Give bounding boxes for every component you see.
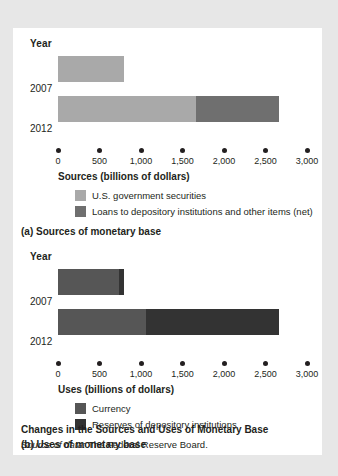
x-axis-tick-mark [97, 361, 102, 366]
x-axis-tick-label: 0 [55, 369, 60, 379]
x-axis-sources: 05001,0001,5002,0002,5003,000 [58, 148, 307, 170]
x-axis-tick-label: 2,000 [213, 156, 236, 166]
figure-card: Year 2007 2012 05001,0001,5002,0002,5003… [13, 28, 322, 455]
year-label-2012-a: 2012 [30, 123, 52, 134]
plot-area-uses [58, 269, 307, 359]
x-axis-title-uses: Uses (billions of dollars) [58, 384, 174, 395]
bar-segment [58, 309, 146, 335]
x-axis-tick-label: 3,000 [296, 369, 319, 379]
x-axis-tick-mark [56, 148, 61, 153]
year-label-2007-a: 2007 [30, 83, 52, 94]
x-axis-tick-mark [263, 361, 268, 366]
chart-panel-uses: Year 2007 2012 05001,0001,5002,0002,5003… [13, 233, 322, 455]
x-axis-tick-mark [97, 148, 102, 153]
x-axis-tick-mark [139, 148, 144, 153]
x-axis-tick-mark [305, 148, 310, 153]
legend-swatch-icon [75, 190, 86, 201]
figure-source-prefix: Source of data: [21, 439, 85, 450]
x-axis-tick-label: 0 [55, 156, 60, 166]
x-axis-tick-mark [56, 361, 61, 366]
bar-segment [196, 96, 279, 122]
x-axis-tick-mark [222, 148, 227, 153]
legend-label: U.S. government securities [92, 189, 206, 202]
x-axis-tick-mark [139, 361, 144, 366]
plot-area-sources [58, 56, 307, 146]
legend-swatch-icon [75, 403, 86, 414]
x-axis-tick-mark [222, 361, 227, 366]
figure-source-text: The Federal Reserve Board. [85, 439, 207, 450]
x-axis-tick-label: 1,500 [171, 156, 194, 166]
bar-segment [146, 309, 279, 335]
x-axis-title-sources: Sources (billions of dollars) [58, 171, 190, 182]
x-axis-tick-label: 2,500 [254, 369, 277, 379]
chart-panel-sources: Year 2007 2012 05001,0001,5002,0002,5003… [13, 28, 322, 246]
bar-segment [119, 269, 123, 295]
figure-source: Source of data: The Federal Reserve Boar… [21, 439, 208, 450]
x-axis-tick-label: 1,500 [171, 369, 194, 379]
x-axis-tick-label: 2,500 [254, 156, 277, 166]
year-axis-header-b: Year [30, 251, 52, 262]
legend-swatch-icon [75, 206, 86, 217]
legend-label: Currency [92, 402, 131, 415]
x-axis-uses: 05001,0001,5002,0002,5003,000 [58, 361, 307, 383]
year-label-2007-b: 2007 [30, 296, 52, 307]
x-axis-tick-mark [305, 361, 310, 366]
x-axis-tick-label: 3,000 [296, 156, 319, 166]
year-axis-header-a: Year [30, 38, 52, 49]
bar-segment [58, 56, 124, 82]
bar-segment [58, 96, 196, 122]
x-axis-tick-label: 1,000 [130, 156, 153, 166]
figure-title: Changes in the Sources and Uses of Monet… [21, 424, 268, 435]
x-axis-tick-mark [180, 148, 185, 153]
x-axis-tick-mark [263, 148, 268, 153]
x-axis-tick-label: 500 [92, 156, 107, 166]
x-axis-tick-mark [180, 361, 185, 366]
year-label-2012-b: 2012 [30, 336, 52, 347]
bar-segment [58, 269, 119, 295]
x-axis-tick-label: 500 [92, 369, 107, 379]
x-axis-tick-label: 2,000 [213, 369, 236, 379]
legend-label: Loans to depository institutions and oth… [92, 205, 313, 218]
x-axis-tick-label: 1,000 [130, 369, 153, 379]
